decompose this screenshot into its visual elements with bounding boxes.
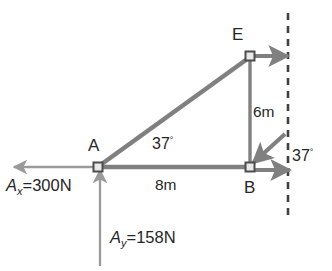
degree-symbol-at-wall: ° [310, 147, 314, 157]
node-label-B: B [244, 179, 256, 196]
force-unit-Ay: N [164, 228, 176, 246]
truss-members [98, 57, 250, 167]
force-symbol-Ax: A [6, 176, 17, 194]
angle-value-at-wall: 37 [292, 147, 310, 164]
node-label-A: A [88, 137, 100, 154]
free-body-diagram: E A B 6m 8m 37° 37° Ax=300N Ay=158N [0, 0, 332, 271]
force-magnitude-Ay: 158 [136, 228, 164, 246]
dimension-label-span: 8m [155, 177, 177, 193]
dimension-label-height: 6m [253, 104, 275, 120]
force-equals-Ax: = [23, 176, 33, 194]
force-equals-Ay: = [127, 228, 137, 246]
joint-marker-A [94, 163, 103, 172]
force-label-Ay: Ay=158N [110, 229, 176, 249]
force-arrow-B-inclined [253, 134, 285, 163]
angle-value-at-A: 37 [152, 135, 170, 152]
node-label-E: E [232, 26, 244, 43]
joint-marker-B [246, 163, 255, 172]
angle-label-at-wall: 37° [292, 148, 313, 164]
force-magnitude-Ax: 300 [32, 176, 60, 194]
joint-marker-E [246, 52, 255, 61]
member-A-E [99, 57, 250, 166]
degree-symbol-at-A: ° [170, 135, 174, 145]
force-symbol-Ay: A [110, 228, 121, 246]
force-unit-Ax: N [60, 176, 72, 194]
force-label-Ax: Ax=300N [6, 177, 72, 197]
angle-label-at-A: 37° [152, 136, 173, 152]
